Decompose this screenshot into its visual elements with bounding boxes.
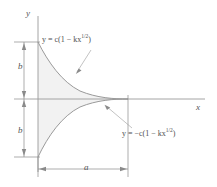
dimension-label-b-upper: b [18, 62, 23, 71]
curve-diagram-svg [0, 0, 217, 187]
dim-arrow-a-right [120, 167, 127, 171]
lower-eq-exponent: 1/2 [166, 127, 173, 133]
x-axis-label: x [196, 103, 200, 112]
figure-container: y x b b a y = c(1 − kx1/2) y = −c(1 − kx… [0, 0, 217, 187]
lower-curve-equation-label: y = −c(1 − kx1/2) [122, 130, 175, 138]
leader-arrow-upper [76, 69, 82, 74]
lower-eq-main: y = −c(1 − kx [122, 129, 166, 138]
dim-arrow-a-left [39, 167, 46, 171]
lower-eq-close: ) [173, 129, 176, 138]
dim-arrow-b-lower-top [22, 100, 26, 107]
dimension-label-a: a [84, 163, 89, 172]
upper-eq-close: ) [88, 35, 91, 44]
dim-arrow-b-lower-bottom [22, 149, 26, 156]
leader-line-upper [77, 50, 91, 72]
dim-arrow-b-upper-top [22, 43, 26, 50]
y-axis-label: y [26, 9, 30, 18]
upper-curve-equation-label: y = c(1 − kx1/2) [42, 36, 91, 44]
upper-eq-main: y = c(1 − kx [42, 35, 81, 44]
dim-arrow-b-upper-bottom [22, 91, 26, 98]
dimension-label-b-lower: b [18, 126, 23, 135]
